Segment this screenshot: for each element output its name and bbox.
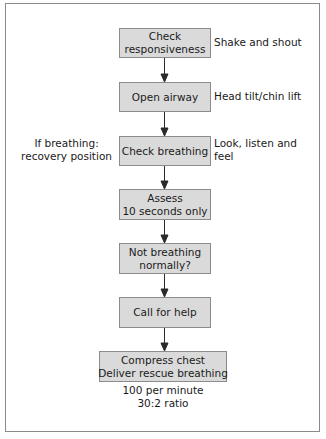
step-compress-chest: Compress chest Deliver rescue breathing <box>99 351 227 382</box>
note-text: 30:2 ratio <box>99 397 227 410</box>
step-check-responsiveness: Check responsiveness <box>119 28 211 58</box>
step-call-for-help: Call for help <box>119 297 211 328</box>
step-text: Not breathing <box>129 246 201 259</box>
step-text: Deliver rescue breathing <box>98 367 228 380</box>
note-shake-and-shout: Shake and shout <box>214 36 302 49</box>
note-text: If breathing: <box>21 137 112 150</box>
step-text: Compress chest <box>121 354 205 367</box>
note-text: 100 per minute <box>99 384 227 397</box>
step-text: normally? <box>139 259 191 272</box>
step-text: 10 seconds only <box>122 205 207 218</box>
note-compression-rate: 100 per minute 30:2 ratio <box>99 384 227 410</box>
note-look-listen-feel: Look, listen and feel <box>214 137 297 163</box>
note-text: feel <box>214 150 297 163</box>
step-text: responsiveness <box>125 43 206 56</box>
note-text: recovery position <box>21 150 112 163</box>
note-text: Shake and shout <box>214 36 302 49</box>
note-head-tilt: Head tilt/chin lift <box>214 90 301 103</box>
step-not-breathing-normally: Not breathing normally? <box>119 243 211 274</box>
note-text: Head tilt/chin lift <box>214 90 301 103</box>
note-recovery-position: If breathing: recovery position <box>21 137 112 163</box>
step-text: Assess <box>147 192 183 205</box>
step-text: Check <box>149 30 181 43</box>
step-open-airway: Open airway <box>119 82 211 112</box>
step-text: Check breathing <box>122 145 208 158</box>
step-assess: Assess 10 seconds only <box>119 189 211 220</box>
step-check-breathing: Check breathing <box>119 136 211 166</box>
note-text: Look, listen and <box>214 137 297 150</box>
step-text: Open airway <box>132 91 198 104</box>
step-text: Call for help <box>133 306 196 319</box>
